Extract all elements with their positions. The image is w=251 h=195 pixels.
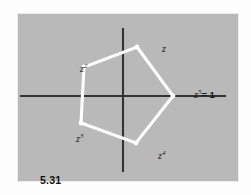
- vertex-label-z: z: [162, 44, 166, 54]
- vertex-label-z4-exponent: 4: [162, 149, 166, 157]
- figure-container: z z2 z3 z4 z5= 1 5.31: [0, 0, 251, 195]
- vertex-point-z3: [79, 121, 84, 126]
- vertex-label-z2-exponent: 2: [84, 62, 88, 70]
- vertex-label-z4: z4: [158, 151, 165, 161]
- vertex-label-z5: z5= 1: [194, 90, 215, 100]
- vertex-point-z: [135, 45, 140, 50]
- vertex-point-z5: [171, 94, 176, 99]
- vertex-point-z4: [134, 141, 139, 146]
- figure-number-caption: 5.31: [40, 174, 61, 186]
- vertex-label-z5-equation: = 1: [201, 89, 214, 100]
- figure-plot-panel: z z2 z3 z4 z5= 1 5.31: [18, 14, 238, 181]
- vertex-label-z3-exponent: 3: [80, 132, 84, 140]
- vertex-label-z-base: z: [162, 43, 166, 54]
- vertex-label-z3: z3: [76, 134, 83, 144]
- vertex-label-z2: z2: [80, 64, 87, 74]
